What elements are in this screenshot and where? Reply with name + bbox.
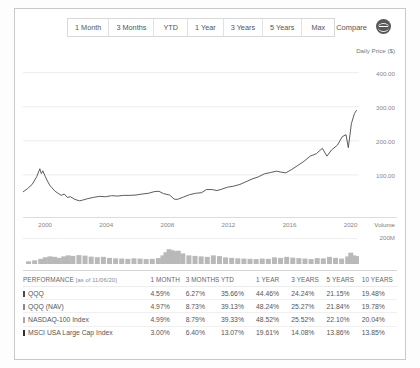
volume-bar: [248, 259, 253, 264]
volume-bar: [284, 257, 289, 264]
range-button-3-years[interactable]: 3 Years: [224, 19, 263, 36]
table-row: NASDAQ-100 Index4.99%8.79%39.33%48.52%25…: [23, 313, 397, 326]
volume-bar: [260, 259, 265, 264]
range-button-max[interactable]: Max: [302, 19, 334, 36]
minus-circle-icon[interactable]: [376, 19, 391, 34]
legend-swatch-icon: [23, 291, 25, 297]
series-name: NASDAQ-100 Index: [28, 316, 89, 323]
volume-bar: [150, 259, 155, 264]
performance-value: 20.04%: [362, 313, 397, 326]
x-tick-2008: 2008: [160, 221, 174, 228]
y-tick-100.00: 100.00: [376, 171, 395, 178]
volume-bar: [223, 257, 228, 264]
volume-bar: [119, 259, 124, 264]
range-button-1-month[interactable]: 1 Month: [68, 19, 109, 36]
y-tick-300.00: 300.00: [376, 103, 395, 110]
performance-value: 19.78%: [362, 300, 397, 313]
performance-value: 39.13%: [221, 300, 256, 313]
performance-value: 4.59%: [150, 287, 185, 300]
chart-toolbar: 1 Month3 MonthsYTD1 Year3 Years5 YearsMa…: [23, 15, 397, 45]
performance-value: 22.10%: [327, 313, 362, 326]
performance-value: 4.97%: [150, 300, 185, 313]
y-tick-400.00: 400.00: [376, 69, 395, 76]
performance-table-element: PERFORMANCE [as of 11/06/20] 1 MONTH3 MO…: [23, 274, 397, 339]
gridlines: [23, 73, 359, 175]
volume-bar: [101, 257, 106, 264]
volume-bar: [107, 258, 112, 264]
row-label: MSCI USA Large Cap Index: [23, 326, 150, 339]
volume-bar: [205, 257, 210, 264]
chart-widget: 1 Month3 MonthsYTD1 Year3 Years5 YearsMa…: [0, 0, 420, 368]
volume-bar: [296, 258, 301, 264]
x-axis: 200020042008201220162020 Volume: [23, 217, 397, 232]
volume-bar: [186, 255, 191, 264]
performance-table: PERFORMANCE [as of 11/06/20] 1 MONTH3 MO…: [23, 270, 397, 339]
volume-bar: [309, 259, 314, 264]
column-header-1-year: 1 YEAR: [256, 274, 291, 287]
range-button-3-months[interactable]: 3 Months: [109, 19, 154, 36]
performance-value: 13.86%: [327, 326, 362, 339]
volume-bars: [26, 249, 359, 264]
volume-bar: [193, 256, 198, 264]
volume-bar: [32, 260, 37, 264]
volume-bar: [95, 257, 100, 264]
performance-value: 24.24%: [291, 287, 326, 300]
volume-bar: [38, 259, 43, 264]
volume-bar: [333, 258, 338, 264]
volume-bars-svg: [23, 232, 359, 264]
volume-bar: [52, 257, 57, 264]
volume-bar: [321, 258, 326, 264]
volume-bar: [217, 256, 222, 264]
x-tick-2016: 2016: [283, 221, 297, 228]
volume-bar: [76, 255, 81, 264]
performance-value: 14.08%: [291, 326, 326, 339]
x-tick-2020: 2020: [344, 221, 358, 228]
performance-value: 48.52%: [256, 313, 291, 326]
column-header-3-months: 3 MONTHS: [186, 274, 221, 287]
column-header-performance: PERFORMANCE [as of 11/06/20]: [23, 274, 150, 287]
volume-bar: [43, 257, 48, 264]
x-tick-2012: 2012: [222, 221, 236, 228]
performance-value: 48.24%: [256, 300, 291, 313]
table-header-row: PERFORMANCE [as of 11/06/20] 1 MONTH3 MO…: [23, 274, 397, 287]
volume-bar: [131, 258, 136, 264]
volume-axis-title: Volume: [374, 221, 395, 228]
performance-value: 6.27%: [186, 287, 221, 300]
table-body: QQQ4.59%6.27%35.66%44.46%24.24%21.15%19.…: [23, 287, 397, 339]
widget-frame: 1 Month3 MonthsYTD1 Year3 Years5 YearsMa…: [14, 8, 406, 360]
performance-value: 13.85%: [362, 326, 397, 339]
legend-swatch-icon: [23, 330, 25, 336]
column-header-3-years: 3 YEARS: [291, 274, 326, 287]
volume-tick-label: 200M: [380, 234, 395, 241]
performance-value: 8.73%: [186, 300, 221, 313]
volume-bar: [176, 251, 181, 264]
y-axis-title: Daily Price ($): [356, 47, 395, 54]
table-row: QQQ4.59%6.27%35.66%44.46%24.24%21.15%19.…: [23, 287, 397, 300]
series-name: QQQ (NAV): [28, 303, 64, 310]
table-row: QQQ (NAV)4.97%8.73%39.13%48.24%25.27%21.…: [23, 300, 397, 313]
volume-bar: [315, 258, 320, 264]
volume-bar: [302, 259, 307, 264]
volume-bar: [254, 259, 259, 264]
range-button-1-year[interactable]: 1 Year: [188, 19, 224, 36]
row-label: NASDAQ-100 Index: [23, 313, 150, 326]
volume-bar: [229, 258, 234, 264]
series-name: MSCI USA Large Cap Index: [28, 329, 113, 336]
volume-bar: [211, 255, 216, 264]
performance-value: 6.40%: [186, 326, 221, 339]
volume-bar: [113, 258, 118, 264]
price-chart: Daily Price ($) 400.00300.00200.00100.00: [23, 47, 397, 217]
volume-bar: [266, 259, 271, 264]
compare-label[interactable]: Compare: [336, 23, 367, 32]
volume-bar: [144, 259, 149, 264]
volume-bar: [356, 256, 359, 264]
range-button-5-years[interactable]: 5 Years: [263, 19, 302, 36]
volume-bar: [199, 256, 204, 264]
range-button-ytd[interactable]: YTD: [154, 19, 188, 36]
range-selector-group[interactable]: 1 Month3 MonthsYTD1 Year3 Years5 YearsMa…: [67, 18, 335, 37]
volume-bar: [57, 258, 62, 264]
series-name: QQQ: [28, 290, 44, 297]
volume-bar: [83, 256, 88, 264]
volume-bar: [89, 257, 94, 264]
price-plot-area: 400.00300.00200.00100.00: [23, 59, 397, 209]
